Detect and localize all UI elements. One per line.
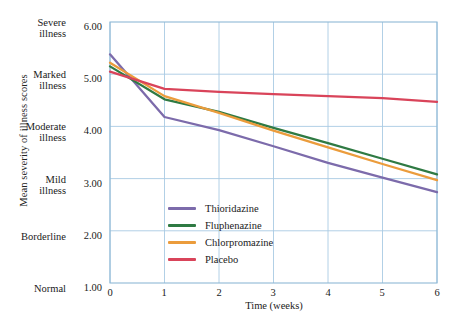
legend-label-fluphenazine: Fluphenazine	[205, 220, 262, 231]
x-tick-1: 1	[154, 287, 174, 298]
y-tick-value-4: 4.00	[68, 125, 102, 136]
legend-label-placebo: Placebo	[205, 254, 238, 265]
legend-item-placebo: Placebo	[168, 251, 273, 268]
legend-item-thioridazine: Thioridazine	[168, 200, 273, 217]
y-tick-value-5: 5.00	[68, 73, 102, 84]
chart-legend: Thioridazine Fluphenazine Chlorpromazine…	[168, 200, 273, 268]
y-tick-category-5: Marked illness	[0, 69, 66, 91]
legend-item-chlorpromazine: Chlorpromazine	[168, 234, 273, 251]
y-tick-value-1: 1.00	[68, 282, 102, 293]
legend-item-fluphenazine: Fluphenazine	[168, 217, 273, 234]
y-tick-category-3: Mild illness	[0, 174, 66, 196]
plot-area	[0, 0, 458, 327]
y-tick-value-6: 6.00	[68, 21, 102, 32]
x-tick-5: 5	[372, 287, 392, 298]
x-tick-6: 6	[427, 287, 447, 298]
chart-figure: Mean severity of illness scores Time (we…	[0, 0, 458, 327]
y-tick-value-2: 2.00	[68, 230, 102, 241]
legend-swatch-placebo	[168, 258, 196, 261]
legend-swatch-chlorpromazine	[168, 241, 196, 244]
x-tick-2: 2	[209, 287, 229, 298]
legend-label-thioridazine: Thioridazine	[205, 203, 259, 214]
gridlines	[110, 22, 437, 283]
x-tick-0: 0	[100, 287, 120, 298]
x-tick-3: 3	[263, 287, 283, 298]
x-axis-title: Time (weeks)	[110, 300, 438, 311]
legend-label-chlorpromazine: Chlorpromazine	[205, 237, 273, 248]
y-tick-category-4: Moderate illness	[0, 121, 66, 143]
legend-swatch-fluphenazine	[168, 224, 196, 227]
y-tick-category-6: Severe illness	[0, 17, 66, 39]
y-tick-category-2: Borderline	[0, 231, 66, 242]
y-tick-category-1: Normal	[0, 283, 66, 294]
legend-swatch-thioridazine	[168, 207, 196, 210]
x-tick-4: 4	[318, 287, 338, 298]
y-tick-value-3: 3.00	[68, 178, 102, 189]
